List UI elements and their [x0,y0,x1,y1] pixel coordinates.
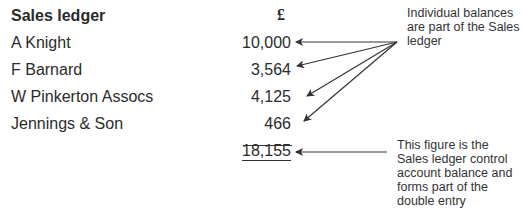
arrow-icon [296,42,397,152]
